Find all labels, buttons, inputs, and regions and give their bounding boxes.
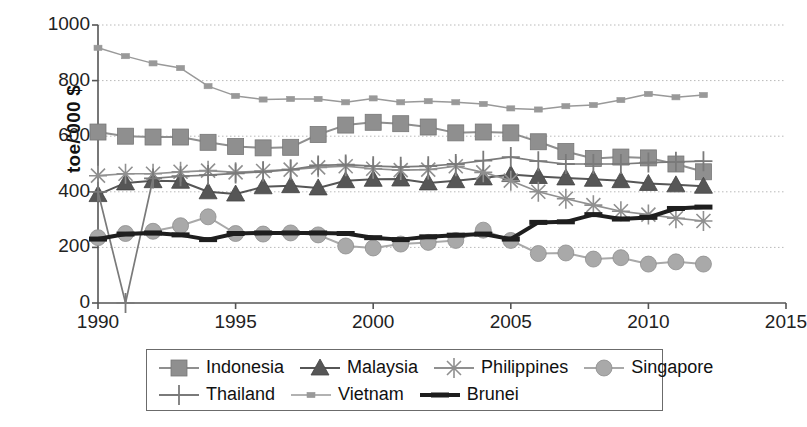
marker-asterisk — [557, 189, 575, 209]
marker-circle — [596, 360, 612, 376]
marker-small-square — [149, 61, 157, 66]
marker-thick-bar — [447, 233, 465, 238]
marker-asterisk — [445, 358, 463, 378]
marker-thick-bar — [392, 237, 410, 242]
marker-square — [173, 129, 189, 145]
marker-small-square — [287, 96, 295, 101]
marker-circle — [585, 251, 601, 267]
marker-small-square — [94, 45, 102, 50]
x-tick-label: 2000 — [338, 311, 408, 333]
legend-item-philippines[interactable]: Philippines — [432, 357, 568, 378]
marker-square — [90, 124, 106, 140]
legend-swatch-plus — [157, 385, 201, 405]
marker-triangle — [311, 359, 329, 375]
marker-small-square — [507, 106, 515, 111]
marker-thick-bar — [584, 212, 602, 217]
y-tick-label: 200 — [32, 235, 90, 257]
legend-label: Indonesia — [206, 357, 284, 378]
marker-square — [228, 138, 244, 154]
marker-square — [393, 116, 409, 132]
marker-thick-bar — [89, 237, 107, 242]
marker-plus — [502, 147, 520, 167]
legend-label: Singapore — [631, 357, 713, 378]
legend-label: Thailand — [206, 384, 275, 405]
marker-thick-bar — [282, 230, 300, 235]
marker-thick-bar — [199, 237, 217, 242]
marker-circle — [640, 256, 656, 272]
marker-square — [200, 134, 216, 150]
marker-thick-bar — [337, 231, 355, 236]
marker-square — [255, 140, 271, 156]
marker-thick-bar — [117, 232, 135, 237]
marker-circle — [695, 256, 711, 272]
marker-square — [530, 134, 546, 150]
legend-item-indonesia[interactable]: Indonesia — [157, 357, 284, 378]
marker-small-square — [314, 96, 322, 101]
marker-plus — [364, 156, 382, 176]
marker-plus — [170, 385, 188, 405]
marker-thick-bar — [694, 205, 712, 210]
marker-square — [145, 129, 161, 145]
legend-item-singapore[interactable]: Singapore — [582, 357, 713, 378]
marker-thick-bar — [502, 237, 520, 242]
legend-swatch-triangle — [298, 358, 342, 378]
marker-thick-bar — [431, 392, 449, 397]
marker-small-square — [204, 84, 212, 89]
marker-circle — [200, 209, 216, 225]
legend-row-2: ThailandVietnamBrunei — [157, 381, 654, 408]
x-tick-label: 2005 — [476, 311, 546, 333]
marker-asterisk — [117, 164, 135, 184]
legend-label: Brunei — [467, 384, 519, 405]
marker-small-square — [479, 101, 487, 106]
y-tick-label: 0 — [32, 291, 90, 313]
marker-small-square — [397, 100, 405, 105]
legend-item-thailand[interactable]: Thailand — [157, 384, 275, 405]
marker-asterisk — [529, 182, 547, 202]
y-tick-label: 1000 — [32, 13, 90, 35]
marker-square — [503, 125, 519, 141]
marker-small-square — [232, 93, 240, 98]
x-tick-label: 1995 — [201, 311, 271, 333]
marker-thick-bar — [227, 231, 245, 236]
marker-plus — [474, 151, 492, 171]
marker-thick-bar — [557, 219, 575, 224]
marker-thick-bar — [172, 232, 190, 237]
marker-plus — [419, 156, 437, 176]
x-tick-label: 2015 — [751, 311, 807, 333]
marker-asterisk — [694, 211, 712, 231]
marker-circle — [668, 254, 684, 270]
marker-thick-bar — [639, 215, 657, 220]
marker-small-square — [307, 392, 315, 397]
legend-item-vietnam[interactable]: Vietnam — [289, 384, 404, 405]
marker-plus — [447, 154, 465, 174]
line-chart-figure: toe/'000 $ 02004006008001000199019952000… — [0, 0, 807, 340]
legend-item-malaysia[interactable]: Malaysia — [298, 357, 418, 378]
legend-item-brunei[interactable]: Brunei — [418, 384, 519, 405]
marker-small-square — [369, 96, 377, 101]
marker-thick-bar — [474, 232, 492, 237]
marker-small-square — [699, 92, 707, 97]
chart-plot-svg — [0, 0, 807, 340]
marker-square — [283, 139, 299, 155]
marker-circle — [558, 245, 574, 261]
marker-square — [118, 128, 134, 144]
marker-thick-bar — [529, 220, 547, 225]
y-tick-label: 800 — [32, 69, 90, 91]
chart-page: toe/'000 $ 02004006008001000199019952000… — [0, 0, 807, 427]
x-tick-label: 1990 — [63, 311, 133, 333]
legend-swatch-thick-bar — [418, 385, 462, 405]
marker-square — [310, 127, 326, 143]
marker-small-square — [562, 104, 570, 109]
marker-small-square — [672, 95, 680, 100]
marker-plus — [309, 155, 327, 175]
marker-small-square — [452, 100, 460, 105]
marker-thick-bar — [612, 217, 630, 222]
marker-thick-bar — [309, 230, 327, 235]
marker-thick-bar — [667, 206, 685, 211]
y-tick-label: 600 — [32, 124, 90, 146]
marker-thick-bar — [144, 230, 162, 235]
legend-row-1: IndonesiaMalaysiaPhilippinesSingapore — [157, 354, 654, 381]
marker-small-square — [534, 107, 542, 112]
marker-plus — [199, 165, 217, 185]
legend-swatch-small-square — [289, 385, 333, 405]
